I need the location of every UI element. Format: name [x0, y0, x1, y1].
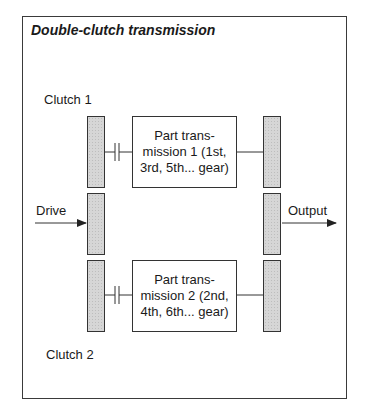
part-transmission-1-box: Part trans- mission 1 (1st, 3rd, 5th... …	[132, 116, 237, 188]
box-1-line-3: 3rd, 5th... gear)	[140, 160, 229, 176]
box-2-line-2: mission 2 (2nd,	[140, 288, 228, 304]
box-2-line-1: Part trans-	[140, 272, 228, 288]
box-1-line-2: mission 1 (1st,	[140, 144, 229, 160]
box-2-line-3: 4th, 6th... gear)	[140, 304, 228, 320]
box-1-line-1: Part trans-	[140, 128, 229, 144]
part-transmission-2-box: Part trans- mission 2 (2nd, 4th, 6th... …	[132, 260, 237, 332]
connector-lines	[0, 0, 365, 410]
